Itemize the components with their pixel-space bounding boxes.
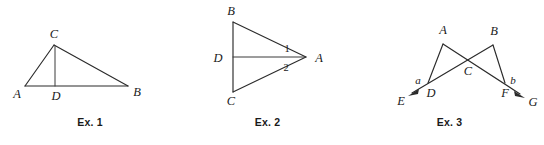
vertex-label-A: A bbox=[438, 23, 447, 37]
vertex-label-E: E bbox=[396, 94, 405, 108]
vertex-label-C: C bbox=[50, 27, 59, 41]
vertex-label-C: C bbox=[464, 64, 473, 78]
geometry-exercise-sheet: C A D B Ex. 1 B C D A 1 2 Ex. 2 bbox=[0, 0, 544, 145]
segment-AC bbox=[25, 45, 54, 86]
segment-AD bbox=[428, 44, 443, 83]
arrowhead-E-icon bbox=[408, 89, 419, 96]
figure-ex-1: C A D B Ex. 1 bbox=[0, 0, 180, 145]
figure-ex-3-drawing: A B C D F E G a b bbox=[355, 0, 544, 116]
angle-label-1: 1 bbox=[284, 43, 289, 54]
vertex-label-D: D bbox=[425, 86, 435, 100]
figure-ex-2-drawing: B C D A 1 2 bbox=[180, 0, 355, 116]
segment-CA bbox=[233, 57, 306, 92]
vertex-label-D: D bbox=[50, 89, 60, 103]
angle-label-2: 2 bbox=[283, 62, 288, 73]
figure-caption-ex-1: Ex. 1 bbox=[0, 116, 180, 128]
vertex-label-B: B bbox=[490, 24, 498, 38]
vertex-label-B: B bbox=[227, 4, 235, 18]
vertex-label-F: F bbox=[500, 86, 509, 100]
vertex-label-D: D bbox=[212, 51, 222, 65]
figure-ex-2: B C D A 1 2 Ex. 2 bbox=[180, 0, 355, 145]
vertex-label-A: A bbox=[314, 51, 323, 65]
figure-caption-ex-2: Ex. 2 bbox=[180, 116, 355, 128]
figure-ex-1-drawing: C A D B bbox=[0, 0, 180, 116]
vertex-label-G: G bbox=[528, 95, 537, 109]
vertex-label-C: C bbox=[227, 94, 236, 108]
figure-ex-3: A B C D F E G a b Ex. 3 bbox=[355, 0, 544, 145]
figure-caption-ex-3: Ex. 3 bbox=[355, 116, 544, 128]
vertex-label-A: A bbox=[12, 87, 21, 101]
angle-label-a: a bbox=[415, 74, 421, 86]
segment-BA bbox=[233, 22, 306, 57]
segment-CB bbox=[54, 45, 128, 86]
arrowhead-G-icon bbox=[514, 91, 525, 98]
angle-label-b: b bbox=[510, 74, 516, 86]
vertex-label-B: B bbox=[133, 85, 141, 99]
